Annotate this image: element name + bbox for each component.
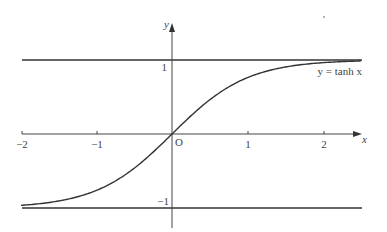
- x-axis-label: x: [361, 133, 367, 145]
- x-tick-label: 1: [245, 138, 251, 150]
- origin-label: O: [175, 136, 183, 148]
- curve-label-text: y = tanh x: [318, 65, 363, 77]
- y-tick-label: 1: [162, 61, 168, 73]
- x-tick-label: −2: [16, 138, 28, 150]
- x-tick-label: −1: [91, 138, 103, 150]
- x-axis-arrow-icon: [353, 131, 362, 137]
- y-axis-label: y: [163, 18, 169, 30]
- x-tick-label: 2: [321, 138, 327, 150]
- tanh-graph: −2 −1 1 2 1 −1 O x y y = tanh x: [0, 0, 387, 232]
- curve-label: y = tanh x: [318, 65, 363, 77]
- y-axis-arrow-icon: [169, 23, 175, 32]
- tanh-curve: [21, 61, 361, 205]
- stray-dot: [323, 16, 325, 18]
- y-tick-label: −1: [157, 195, 169, 207]
